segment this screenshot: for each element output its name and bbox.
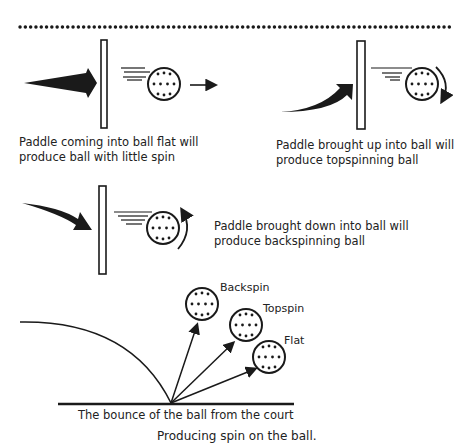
backspin-caption-line2: produce backspinning ball [214,234,365,248]
upward-stroke-arrow-icon [280,84,353,112]
ball-flat-bounce [253,341,285,373]
topspin-caption-line1: Paddle brought up into ball will [276,138,454,152]
topspin-caption-line2: produce topspinning ball [276,153,419,167]
ball-topspin-bounce [230,309,262,341]
bounce-illustration [20,288,294,404]
backspin-caption-line1: Paddle brought down into ball will [214,219,409,233]
paddle-topspin [357,41,365,129]
downward-stroke-arrow-icon [22,203,92,230]
paddle-backspin [99,186,106,274]
flat-shot-illustration [24,40,215,128]
figure-caption: Producing spin on the ball. [157,429,317,443]
flat-caption-line1: Paddle coming into ball flat will [19,135,199,149]
flat-caption-line2: produce ball with little spin [19,150,175,164]
topspin-label: Topspin [263,302,304,316]
bounce-caption: The bounce of the ball from the court [78,408,294,422]
incoming-trajectory [20,322,171,403]
ball-flat [148,68,180,100]
flat-label: Flat [284,334,304,348]
ball-backspin-bounce [186,288,218,320]
flat-trajectory-arrow [171,369,255,403]
ball-backspin [147,212,179,244]
backspin-label: Backspin [220,281,269,295]
ball-topspin [406,68,438,100]
speed-lines [121,68,150,80]
topspin-shot-illustration [280,41,446,129]
backspin-shot-illustration [22,186,187,274]
flat-stroke-arrow-icon [24,68,97,98]
paddle-flat [101,40,107,128]
speed-lines [114,212,152,224]
speed-lines [371,68,412,80]
